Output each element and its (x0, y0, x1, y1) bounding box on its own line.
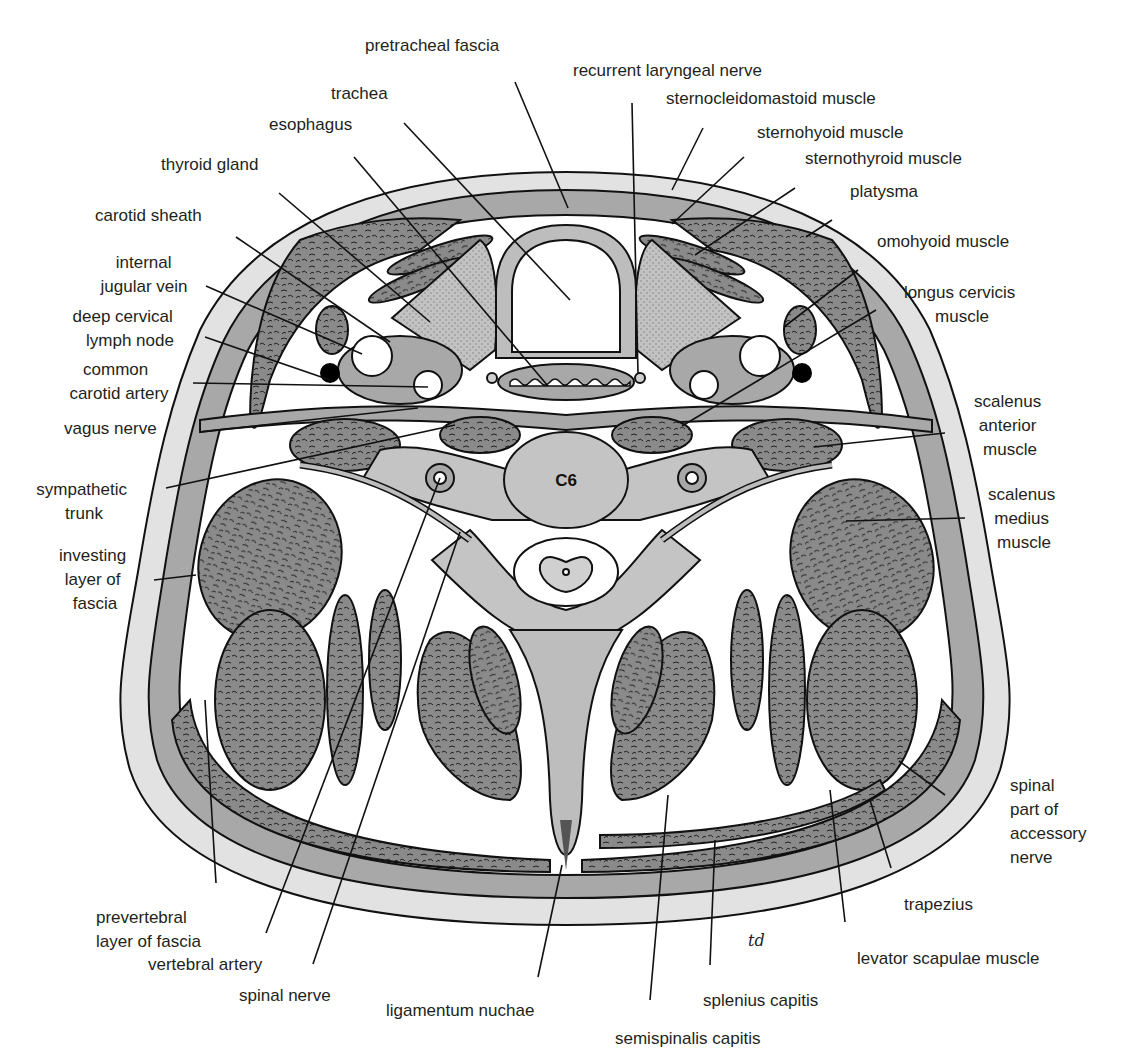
label-spinal-nerve: spinal nerve (239, 986, 331, 1005)
label-sternothyroid-muscle: sternothyroid muscle (805, 149, 962, 168)
neck-cross-section-diagram: C6 td pretracheal fasc (0, 0, 1133, 1061)
label-vertebral-artery: vertebral artery (148, 955, 263, 974)
deep-muscle-right-a (731, 590, 763, 730)
central-canal (563, 569, 569, 575)
vertebral-artery-right-lumen (686, 472, 698, 484)
anatomy-illustration: C6 td (120, 172, 1009, 950)
label-scalenus-anterior-muscle: scalenus anterior muscle (974, 392, 1046, 459)
label-common-carotid-artery: common carotid artery (69, 360, 169, 403)
label-investing-layer-of-fascia: investing layer of fascia (59, 546, 131, 613)
vertebra-label: C6 (555, 471, 577, 490)
omohyoid-right (784, 306, 816, 354)
label-platysma: platysma (850, 182, 919, 201)
artist-signature: td (748, 931, 765, 950)
lymph-node-right (792, 363, 812, 383)
splenius-right-strip (769, 595, 805, 785)
recurrent-laryngeal-nerve-left (487, 373, 497, 383)
label-pretracheal-fascia: pretracheal fascia (365, 36, 500, 55)
label-sternohyoid-muscle: sternohyoid muscle (757, 123, 903, 142)
label-deep-cervical-lymph-node: deep cervical lymph node (73, 307, 178, 350)
label-prevertebral-layer-of-fascia: prevertebral layer of fascia (96, 908, 201, 951)
label-trapezius: trapezius (904, 895, 973, 914)
internal-jugular-vein-left (352, 336, 392, 376)
label-ligamentum-nuchae: ligamentum nuchae (386, 1001, 534, 1020)
label-semispinalis-capitis: semispinalis capitis (615, 1029, 761, 1048)
label-internal-jugular-vein: internal jugular vein (100, 253, 188, 296)
recurrent-laryngeal-nerve-right (635, 373, 645, 383)
longus-cervicis-left (440, 417, 520, 453)
label-trachea: trachea (331, 84, 388, 103)
label-recurrent-laryngeal-nerve: recurrent laryngeal nerve (573, 61, 762, 80)
deep-muscle-left-a (369, 590, 401, 730)
label-levator-scapulae-muscle: levator scapulae muscle (857, 949, 1039, 968)
internal-jugular-vein-right (740, 336, 780, 376)
levator-scapulae-left (215, 610, 325, 790)
label-sympathetic-trunk: sympathetic trunk (36, 480, 131, 523)
longus-cervicis-right (612, 417, 692, 453)
common-carotid-artery-left (414, 371, 442, 399)
label-splenius-capitis: splenius capitis (703, 991, 818, 1010)
label-vagus-nerve: vagus nerve (64, 419, 157, 438)
label-omohyoid-muscle: omohyoid muscle (877, 232, 1009, 251)
label-sternocleidomastoid-muscle: sternocleidomastoid muscle (666, 89, 876, 108)
label-carotid-sheath: carotid sheath (95, 206, 202, 225)
splenius-left-strip (327, 595, 363, 785)
label-scalenus-medius-muscle: scalenus medius muscle (988, 485, 1060, 552)
label-esophagus: esophagus (269, 115, 352, 134)
label-spinal-part-of-accessory-nerve: spinal part of accessory nerve (1010, 776, 1091, 867)
common-carotid-artery-right (690, 371, 718, 399)
label-thyroid-gland: thyroid gland (161, 155, 258, 174)
omohyoid-left (316, 306, 348, 354)
